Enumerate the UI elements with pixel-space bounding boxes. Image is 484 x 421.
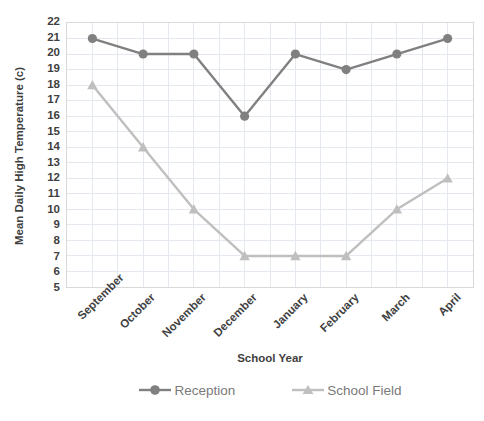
y-axis-tick-label: 10 bbox=[34, 204, 60, 216]
y-axis-tick-label: 13 bbox=[34, 157, 60, 169]
data-point bbox=[87, 80, 97, 89]
legend-circle-marker-icon bbox=[138, 382, 172, 398]
series-school-field bbox=[87, 80, 453, 260]
data-point bbox=[139, 49, 148, 58]
plot-area bbox=[66, 22, 474, 288]
data-series-layer bbox=[67, 23, 473, 287]
y-axis-tick-label: 7 bbox=[34, 251, 60, 263]
y-axis-tick-label: 12 bbox=[34, 173, 60, 185]
y-axis-tick-label: 8 bbox=[34, 235, 60, 247]
line-chart: Mean Daily High Temperature (c) 56789101… bbox=[0, 0, 484, 421]
y-axis-title: Mean Daily High Temperature (c) bbox=[6, 22, 32, 290]
y-axis-tick-label: 22 bbox=[34, 16, 60, 28]
y-axis-tick-label: 5 bbox=[34, 282, 60, 294]
y-axis-tick-label: 21 bbox=[34, 32, 60, 44]
data-point bbox=[392, 204, 402, 213]
x-axis-title: School Year bbox=[66, 352, 474, 364]
y-axis-tick-label: 9 bbox=[34, 220, 60, 232]
y-axis-tick-label: 18 bbox=[34, 79, 60, 91]
data-point bbox=[88, 34, 97, 43]
y-axis-tick-label: 6 bbox=[34, 267, 60, 279]
data-point bbox=[392, 49, 401, 58]
series-line bbox=[92, 39, 447, 117]
x-axis-tick-label: September bbox=[75, 291, 106, 322]
data-point bbox=[189, 49, 198, 58]
data-point bbox=[342, 65, 351, 74]
y-axis-tick-label: 14 bbox=[34, 141, 60, 153]
series-line bbox=[92, 85, 447, 256]
y-axis-tick-label: 17 bbox=[34, 94, 60, 106]
legend-triangle-marker-icon bbox=[291, 382, 325, 398]
y-axis-tick-label: 16 bbox=[34, 110, 60, 122]
data-point bbox=[291, 49, 300, 58]
y-axis-tick-label: 15 bbox=[34, 126, 60, 138]
legend-item-school-field[interactable]: School Field bbox=[291, 382, 401, 398]
data-point bbox=[240, 112, 249, 121]
chart-legend: ReceptionSchool Field bbox=[66, 376, 474, 404]
y-axis-tick-label: 19 bbox=[34, 63, 60, 75]
y-axis-tick-label: 11 bbox=[34, 188, 60, 200]
y-axis-title-label: Mean Daily High Temperature (c) bbox=[13, 67, 25, 245]
y-axis-tick-label: 20 bbox=[34, 48, 60, 60]
data-point bbox=[442, 173, 452, 182]
legend-item-reception[interactable]: Reception bbox=[138, 382, 235, 398]
y-axis-tick-labels: 5678910111213141516171819202122 bbox=[34, 22, 60, 288]
legend-label: School Field bbox=[327, 383, 401, 398]
x-axis-tick-labels: SeptemberOctoberNovemberDecemberJanuaryF… bbox=[66, 289, 474, 351]
data-point bbox=[443, 34, 452, 43]
series-reception bbox=[88, 34, 452, 121]
legend-label: Reception bbox=[174, 383, 235, 398]
